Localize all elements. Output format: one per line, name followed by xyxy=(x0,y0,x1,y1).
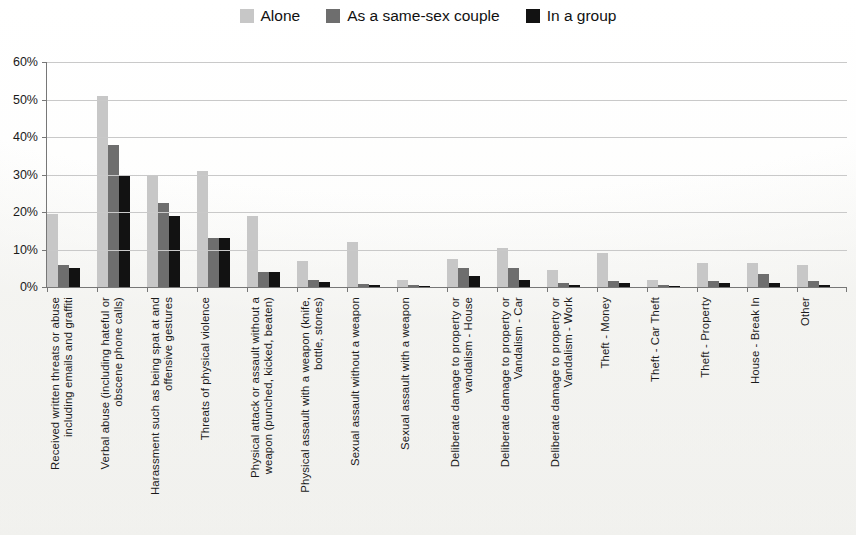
gridline xyxy=(47,212,847,213)
bar[interactable] xyxy=(147,175,158,288)
x-axis-category-label: Sexual assault with a weapon xyxy=(399,297,412,527)
y-axis-tick-mark xyxy=(42,287,47,288)
bar[interactable] xyxy=(297,261,308,287)
legend-label: Alone xyxy=(261,8,301,24)
bar[interactable] xyxy=(597,253,608,287)
bar[interactable] xyxy=(747,263,758,287)
bar[interactable] xyxy=(797,265,808,288)
bar[interactable] xyxy=(208,238,219,287)
bar[interactable] xyxy=(258,272,269,287)
y-axis-tick-label: 50% xyxy=(13,93,38,107)
x-axis-category: Physical assault with a weapon (knife, b… xyxy=(296,297,346,535)
bar[interactable] xyxy=(108,145,119,288)
bar[interactable] xyxy=(58,265,69,288)
bar[interactable] xyxy=(697,263,708,287)
x-axis-category-label: Theft - Money xyxy=(599,297,612,527)
bar[interactable] xyxy=(447,259,458,287)
gridline xyxy=(47,62,847,63)
bar[interactable] xyxy=(497,248,508,287)
legend-item-1[interactable]: As a same-sex couple xyxy=(326,8,500,24)
x-axis-category-label: Sexual assault without a weapon xyxy=(349,297,362,527)
bar[interactable] xyxy=(219,238,230,287)
gridline xyxy=(47,100,847,101)
x-axis-category-label: Deliberate damage to property or vandali… xyxy=(449,297,476,527)
x-axis-category: Deliberate damage to property or vandali… xyxy=(446,297,496,535)
bar[interactable] xyxy=(197,171,208,287)
legend-item-2[interactable]: In a group xyxy=(526,8,617,24)
legend-label: In a group xyxy=(547,8,617,24)
y-axis-tick-mark xyxy=(42,137,47,138)
x-axis-category-label: Verbal abuse (including hateful or obsce… xyxy=(99,297,126,527)
x-axis-category-label: Received written threats or abuse includ… xyxy=(49,297,76,527)
x-axis-category: Sexual assault without a weapon xyxy=(346,297,396,535)
y-axis-tick-mark xyxy=(42,175,47,176)
y-axis-tick-label: 30% xyxy=(13,168,38,182)
x-axis-category: Deliberate damage to property or Vandali… xyxy=(496,297,546,535)
y-axis-tick-label: 40% xyxy=(13,130,38,144)
axis-baseline xyxy=(47,287,847,288)
bar[interactable] xyxy=(647,280,658,288)
bar[interactable] xyxy=(458,268,469,287)
legend-label: As a same-sex couple xyxy=(347,8,500,24)
bar[interactable] xyxy=(547,270,558,287)
legend-swatch-icon xyxy=(326,9,340,23)
x-axis-category: Other xyxy=(796,297,846,535)
x-axis-category-label: Threats of physical violence xyxy=(199,297,212,527)
y-axis-tick-label: 0% xyxy=(20,280,38,294)
x-axis-category-labels: Received written threats or abuse includ… xyxy=(46,297,846,535)
bar[interactable] xyxy=(269,272,280,287)
y-axis-tick-label: 20% xyxy=(13,205,38,219)
bar[interactable] xyxy=(308,280,319,288)
bar[interactable] xyxy=(69,268,80,287)
x-axis-category: Sexual assault with a weapon xyxy=(396,297,446,535)
x-axis-category: House - Break In xyxy=(746,297,796,535)
bar[interactable] xyxy=(469,276,480,287)
legend-item-0[interactable]: Alone xyxy=(240,8,301,24)
x-axis-category-label: Other xyxy=(799,297,812,527)
x-axis-category-label: Harassment such as being spat at and off… xyxy=(149,297,176,527)
x-axis-category-label: Deliberate damage to property or Vandali… xyxy=(499,297,526,527)
bar[interactable] xyxy=(247,216,258,287)
x-axis-category: Harassment such as being spat at and off… xyxy=(146,297,196,535)
x-axis-category-label: House - Break In xyxy=(749,297,762,527)
x-axis-category: Deliberate damage to property or Vandali… xyxy=(546,297,596,535)
x-axis-category-label: Theft - Car Theft xyxy=(649,297,662,527)
gridline xyxy=(47,175,847,176)
x-axis-category: Theft - Money xyxy=(596,297,646,535)
y-axis-tick-mark xyxy=(42,100,47,101)
bar[interactable] xyxy=(158,203,169,287)
bar[interactable] xyxy=(508,268,519,287)
x-axis-category: Theft - Property xyxy=(696,297,746,535)
chart-legend: AloneAs a same-sex coupleIn a group xyxy=(0,8,856,24)
bar-chart: AloneAs a same-sex coupleIn a group 60%5… xyxy=(0,0,856,535)
x-axis-category-label: Deliberate damage to property or Vandali… xyxy=(549,297,576,527)
legend-swatch-icon xyxy=(240,9,254,23)
plot-grid xyxy=(46,62,847,287)
y-axis: 60%50%40%30%20%10%0% xyxy=(0,52,42,292)
x-axis-category: Physical attack or assault without a wea… xyxy=(246,297,296,535)
x-axis-category: Threats of physical violence xyxy=(196,297,246,535)
x-axis-category-label: Physical attack or assault without a wea… xyxy=(249,297,276,527)
x-axis-category-label: Physical assault with a weapon (knife, b… xyxy=(299,297,326,527)
legend-swatch-icon xyxy=(526,9,540,23)
x-axis-category-label: Theft - Property xyxy=(699,297,712,527)
y-axis-tick-label: 60% xyxy=(13,55,38,69)
x-axis-category: Received written threats or abuse includ… xyxy=(46,297,96,535)
y-axis-tick-mark xyxy=(42,62,47,63)
y-axis-tick-mark xyxy=(42,212,47,213)
bar[interactable] xyxy=(397,280,408,288)
gridline xyxy=(47,137,847,138)
gridline xyxy=(47,250,847,251)
bar[interactable] xyxy=(169,216,180,287)
x-axis-category: Theft - Car Theft xyxy=(646,297,696,535)
y-axis-tick-label: 10% xyxy=(13,243,38,257)
plot-area: 60%50%40%30%20%10%0% xyxy=(0,52,856,302)
x-axis-category: Verbal abuse (including hateful or obsce… xyxy=(96,297,146,535)
bar[interactable] xyxy=(758,274,769,287)
bar[interactable] xyxy=(119,176,130,287)
y-axis-tick-mark xyxy=(42,250,47,251)
bar[interactable] xyxy=(519,280,530,288)
bar[interactable] xyxy=(97,96,108,287)
